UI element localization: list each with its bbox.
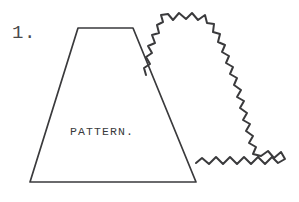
step-number-label: 1.	[12, 22, 36, 44]
figure-canvas: 1. PATTERN.	[0, 0, 299, 202]
pattern-text-label: PATTERN.	[70, 125, 134, 138]
figure-background	[0, 0, 299, 202]
pattern-figure: 1. PATTERN.	[0, 0, 299, 202]
